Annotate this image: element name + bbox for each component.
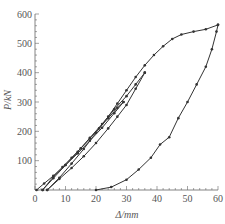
x-tick-label: 60 (213, 193, 223, 204)
data-point-marker (144, 64, 147, 67)
data-point-marker (70, 162, 73, 165)
data-series (35, 24, 219, 192)
data-point-marker (101, 127, 104, 130)
data-point-marker (107, 115, 110, 118)
data-point-marker (205, 66, 208, 69)
data-point-marker (192, 30, 195, 33)
data-point-marker (58, 176, 61, 179)
data-point-marker (125, 104, 128, 107)
data-point-marker (144, 71, 147, 74)
series-line-envelope-loading (47, 25, 218, 190)
data-point-marker (76, 151, 79, 154)
data-point-marker (41, 189, 44, 192)
data-point-marker (43, 182, 46, 185)
y-axis-label: P/kN (2, 89, 13, 111)
data-point-marker (107, 127, 110, 130)
data-point-marker (116, 115, 119, 118)
x-tick-label: 20 (91, 193, 101, 204)
data-point-marker (215, 30, 218, 33)
y-tick-label: 200 (17, 126, 32, 137)
data-point-marker (195, 83, 198, 86)
data-point-marker (171, 38, 174, 41)
data-point-marker (95, 142, 98, 145)
data-point-marker (125, 178, 128, 181)
data-point-marker (52, 177, 55, 180)
data-point-marker (83, 148, 86, 151)
data-point-marker (110, 186, 113, 189)
data-point-marker (113, 112, 116, 115)
x-tick-label: 30 (122, 193, 132, 204)
data-point-marker (70, 167, 73, 170)
data-point-marker (89, 136, 92, 139)
x-tick-label: 40 (152, 193, 162, 204)
x-tick-label: 10 (61, 193, 71, 204)
data-point-marker (125, 89, 128, 92)
data-point-marker (168, 136, 171, 139)
data-point-marker (159, 143, 162, 146)
data-point-marker (153, 54, 156, 57)
data-point-marker (35, 189, 38, 192)
data-point-marker (64, 164, 67, 167)
data-point-marker (186, 101, 189, 104)
data-point-marker (134, 88, 137, 91)
x-tick-label: 0 (33, 193, 38, 204)
data-point-marker (134, 83, 137, 86)
y-tick-label: 400 (17, 67, 32, 78)
data-point-marker (217, 24, 220, 27)
data-point-marker (150, 156, 153, 159)
data-point-marker (177, 117, 180, 120)
y-tick-label: 300 (17, 97, 32, 108)
y-tick-label: 500 (17, 38, 32, 49)
data-point-marker (116, 102, 119, 105)
y-tick-label: 100 (17, 155, 32, 166)
data-point-marker (180, 33, 183, 36)
data-point-marker (211, 48, 214, 51)
data-point-marker (205, 28, 208, 31)
series-line-cycle-1-loading (37, 102, 124, 190)
y-tick-label: 600 (17, 9, 32, 20)
data-point-marker (125, 95, 128, 98)
x-tick-label: 50 (183, 193, 193, 204)
load-displacement-chart: 0102030405060100200300400500600 P/kN Δ/m… (0, 0, 225, 224)
data-point-marker (137, 168, 140, 171)
data-point-marker (83, 155, 86, 158)
data-point-marker (95, 132, 98, 135)
data-point-marker (46, 189, 49, 192)
data-point-marker (95, 189, 98, 192)
data-point-marker (134, 76, 137, 79)
x-axis-label: Δ/mm (114, 209, 138, 220)
data-point-marker (162, 45, 165, 48)
